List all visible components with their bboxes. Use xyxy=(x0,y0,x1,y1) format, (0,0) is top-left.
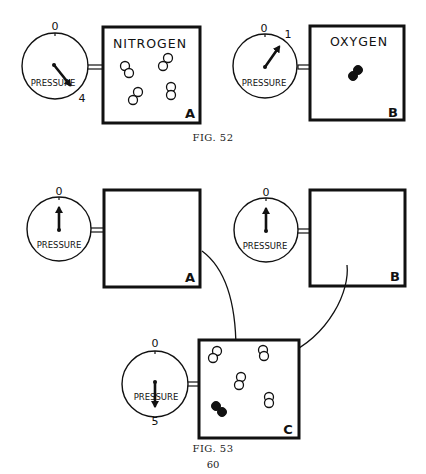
gas-pressure-diagram: 0 PRESSURE 4 NITROGEN A 0 PRESSURE 1 OXY… xyxy=(0,0,426,474)
nitrogen-molecule xyxy=(167,83,176,100)
gauge-reading-label: 5 xyxy=(152,415,159,428)
fig52-container-b: 0 PRESSURE 1 OXYGEN B xyxy=(233,22,404,120)
container-id-label: A xyxy=(185,106,195,121)
figure-caption: FIG. 53 xyxy=(192,443,233,454)
gauge-zero-label: 0 xyxy=(263,186,270,199)
nitrogen-molecule xyxy=(265,393,274,408)
gauge-reading-label: 4 xyxy=(79,92,86,105)
gauge-pressure-label: PRESSURE xyxy=(243,241,288,251)
gauge-reading-label: 1 xyxy=(285,28,292,41)
gas-name-label: NITROGEN xyxy=(113,36,187,51)
gauge-pressure-label: PRESSURE xyxy=(242,78,287,88)
gauge-zero-label: 0 xyxy=(152,337,159,350)
container-id-label: A xyxy=(185,270,195,285)
gauge-zero-label: 0 xyxy=(52,20,59,33)
gauge-pressure-label: PRESSURE xyxy=(31,78,76,88)
gas-name-label: OXYGEN xyxy=(330,34,388,49)
arrow-a-to-c xyxy=(202,251,236,350)
container-id-label: C xyxy=(283,422,293,437)
fig53-container-a: 0 PRESSURE A xyxy=(27,185,200,287)
page-number: 60 xyxy=(207,459,220,470)
gauge-pressure-label: PRESSURE xyxy=(134,392,179,402)
container-id-label: B xyxy=(390,269,400,284)
fig52-container-a: 0 PRESSURE 4 NITROGEN A xyxy=(22,20,200,123)
fig53-container-b: 0 PRESSURE B xyxy=(234,186,405,286)
gauge-zero-label: 0 xyxy=(261,22,268,35)
gauge-zero-label: 0 xyxy=(56,185,63,198)
fig53-container-c: 0 PRESSURE 5 C xyxy=(122,337,299,438)
container-id-label: B xyxy=(388,105,398,120)
gauge-pressure-label: PRESSURE xyxy=(37,240,82,250)
connecting-pipe xyxy=(87,65,103,69)
nitrogen-molecule xyxy=(259,346,269,361)
figure-caption: FIG. 52 xyxy=(192,132,233,143)
